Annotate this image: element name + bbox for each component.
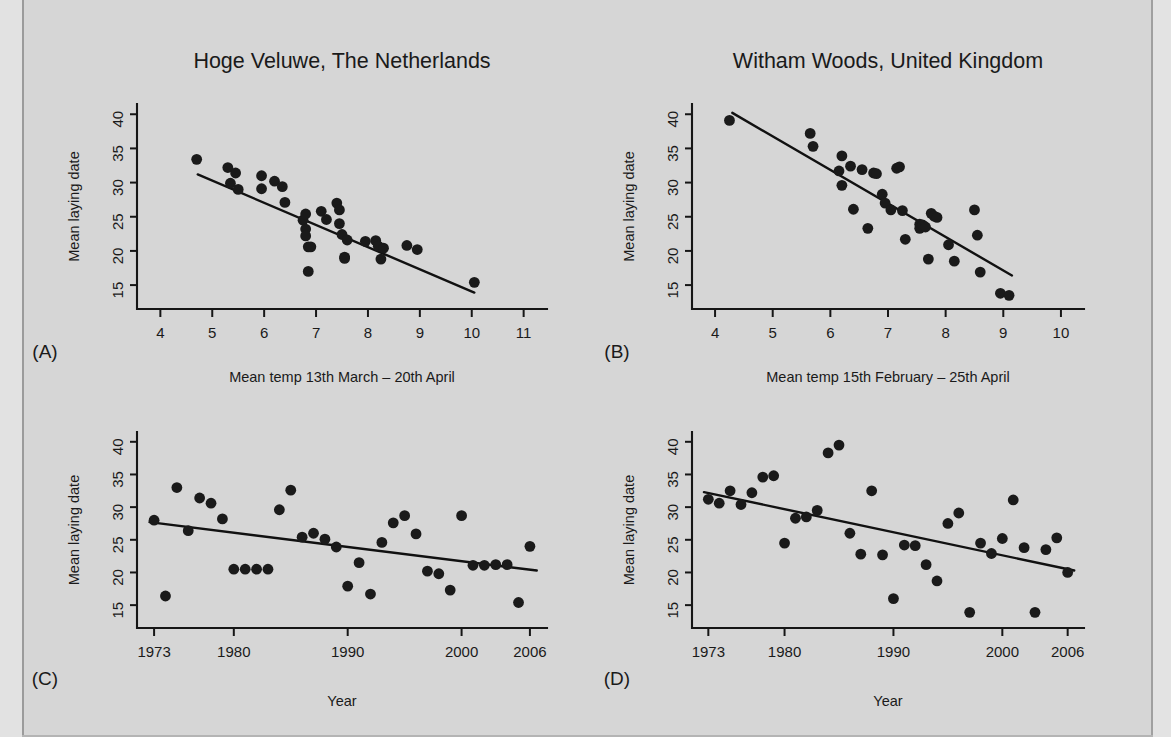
panel-b-title: Witham Woods, United Kingdom [733, 49, 1043, 73]
panel-b-xtick-label-2: 6 [826, 324, 834, 341]
panel-d-xlabel: Year [873, 693, 902, 709]
panel-b-xtick-label-5: 9 [999, 324, 1007, 341]
panel-d-data-point [1062, 567, 1073, 578]
panel-a-data-point [280, 197, 291, 208]
panel-d-data-point [975, 538, 986, 549]
panel-c: 15202530354019731980199020002006Mean lay… [32, 432, 547, 709]
panel-d-data-point [942, 518, 953, 529]
panel-d-data-point [1051, 532, 1062, 543]
panel-c-data-point [183, 525, 194, 536]
panel-d-data-point [703, 494, 714, 505]
panel-b-data-point [897, 205, 908, 216]
panel-c-letter: (C) [32, 668, 58, 689]
panel-c-data-point [228, 564, 239, 575]
panel-b-xtick-label-0: 4 [711, 324, 719, 341]
panel-d: 15202530354019731980199020002006Mean lay… [604, 432, 1085, 709]
panel-c-data-point [217, 513, 228, 524]
panel-d-xtick-label-4: 2006 [1051, 643, 1084, 660]
panel-c-data-point [251, 564, 262, 575]
panel-c-data-point [445, 585, 456, 596]
panel-c-data-point [502, 559, 513, 570]
panel-c-data-point [263, 564, 274, 575]
panel-a-letter: (A) [32, 341, 57, 362]
panel-b-data-point [920, 222, 931, 233]
panel-a-xtick-label-1: 5 [208, 324, 216, 341]
panel-a: Hoge Veluwe, The Netherlands152025303540… [32, 49, 547, 385]
panel-c-ylabel: Mean laying date [66, 475, 82, 585]
panel-c-data-point [433, 568, 444, 579]
panel-d-data-point [1040, 544, 1051, 555]
panel-a-data-point [300, 230, 311, 241]
panel-b-ytick-label-0: 15 [664, 282, 681, 299]
panel-b-letter: (B) [604, 341, 629, 362]
panel-b-data-point [848, 204, 859, 215]
panel-d-data-point [866, 485, 877, 496]
panel-b-data-point [724, 115, 735, 126]
panel-c-data-point [376, 537, 387, 548]
panel-c-data-point [490, 559, 501, 570]
panel-d-data-point [964, 607, 975, 618]
panel-c-data-point [320, 534, 331, 545]
panel-d-data-point [736, 499, 747, 510]
panel-b-data-point [1004, 290, 1015, 301]
panel-c-data-point [479, 560, 490, 571]
panel-c-data-point [388, 517, 399, 528]
panel-c-ytick-label-3: 30 [109, 504, 126, 521]
panel-d-ytick-label-0: 15 [664, 602, 681, 619]
panel-a-title: Hoge Veluwe, The Netherlands [193, 49, 490, 73]
panel-b-ylabel: Mean laying date [621, 151, 637, 261]
panel-b-data-point [969, 205, 980, 216]
panel-b-data-point [972, 230, 983, 241]
panel-c-data-point [274, 504, 285, 515]
panel-c-data-point [285, 485, 296, 496]
panel-a-ylabel: Mean laying date [66, 151, 82, 261]
panel-c-regression-line [150, 522, 537, 570]
panel-d-data-point [823, 448, 834, 459]
panel-d-data-point [1019, 542, 1030, 553]
panel-c-data-point [194, 493, 205, 504]
panel-c-data-point [365, 589, 376, 600]
panel-b-ytick-label-2: 25 [664, 213, 681, 230]
panel-a-xtick-label-0: 4 [156, 324, 164, 341]
panel-d-data-point [801, 512, 812, 523]
panel-d-data-point [1008, 495, 1019, 506]
panel-c-ytick-label-2: 25 [109, 536, 126, 553]
panel-d-ytick-label-3: 30 [664, 504, 681, 521]
panel-c-data-point [149, 515, 160, 526]
panel-d-data-point [844, 528, 855, 539]
panel-c-xtick-label-3: 2000 [445, 643, 478, 660]
panel-b-data-point [923, 254, 934, 265]
panel-c-data-point [525, 541, 536, 552]
panel-d-data-point [910, 540, 921, 551]
panel-b-data-point [885, 205, 896, 216]
panel-d-ylabel: Mean laying date [621, 475, 637, 585]
panel-b-data-point [871, 168, 882, 179]
panel-b-data-point [949, 256, 960, 267]
panel-a-data-point [277, 181, 288, 192]
panel-b-regression-line [732, 113, 1012, 276]
panel-c-data-point [411, 529, 422, 540]
panel-a-xtick-label-5: 9 [416, 324, 424, 341]
panel-c-data-point [513, 597, 524, 608]
panel-b-xlabel: Mean temp 15th February – 25th April [766, 369, 1009, 385]
panel-a-data-point [300, 209, 311, 220]
panel-a-data-point [321, 214, 332, 225]
panel-c-xlabel: Year [327, 693, 356, 709]
panel-a-ytick-label-2: 25 [109, 213, 126, 230]
panel-a-data-point [256, 183, 267, 194]
panel-d-data-point [834, 440, 845, 451]
panel-d-data-point [888, 593, 899, 604]
panel-c-ytick-label-1: 20 [109, 569, 126, 586]
panel-b-data-point [805, 128, 816, 139]
panel-c-data-point [468, 560, 479, 571]
panel-b-ytick-label-4: 35 [664, 145, 681, 162]
panel-d-xtick-label-1: 1980 [768, 643, 801, 660]
panel-b-data-point [900, 234, 911, 245]
panel-c-data-point [308, 528, 319, 539]
panel-c-data-point [331, 542, 342, 553]
panel-d-data-point [932, 576, 943, 587]
panel-d-xtick-label-2: 1990 [877, 643, 910, 660]
panel-a-data-point [191, 154, 202, 165]
panel-a-data-point [360, 236, 371, 247]
panel-d-ytick-label-4: 35 [664, 471, 681, 488]
